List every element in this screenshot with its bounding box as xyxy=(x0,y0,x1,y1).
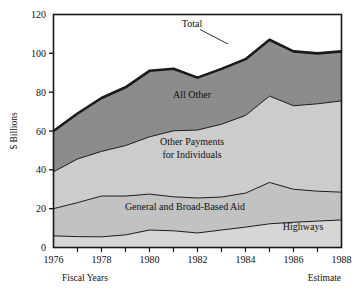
y-tick-label: 40 xyxy=(36,164,46,175)
x-tick-label: 1982 xyxy=(188,254,208,265)
x-tick-label: 1986 xyxy=(284,254,304,265)
x-tick-label: 1984 xyxy=(236,254,256,265)
x-tick-label: 1988 xyxy=(332,254,352,265)
x-tick-label: 1980 xyxy=(140,254,160,265)
y-tick-label: 120 xyxy=(31,9,46,20)
footer-fiscal-years: Fiscal Years xyxy=(62,273,108,283)
y-axis-title: $ Billions xyxy=(9,112,19,150)
stacked-area-chart: 020406080100120 197619781980198219841986… xyxy=(0,0,359,292)
x-tick-label: 1976 xyxy=(44,254,64,265)
y-tick-label: 100 xyxy=(31,48,46,59)
label-other-payments-line2: for Individuals xyxy=(162,149,221,160)
chart-figure: 020406080100120 197619781980198219841986… xyxy=(0,0,359,292)
label-all-other: All Other xyxy=(173,89,212,100)
y-tick-label: 20 xyxy=(36,203,46,214)
label-general-aid: General and Broad-Based Aid xyxy=(125,201,245,212)
y-tick-label: 80 xyxy=(36,87,46,98)
footer-estimate: Estimate xyxy=(308,273,341,283)
label-other-payments-line1: Other Payments xyxy=(160,136,224,147)
y-tick-label: 0 xyxy=(41,242,46,253)
label-highways: Highways xyxy=(283,221,324,232)
y-tick-label: 60 xyxy=(36,126,46,137)
label-total: Total xyxy=(182,18,203,29)
x-tick-label: 1978 xyxy=(92,254,112,265)
